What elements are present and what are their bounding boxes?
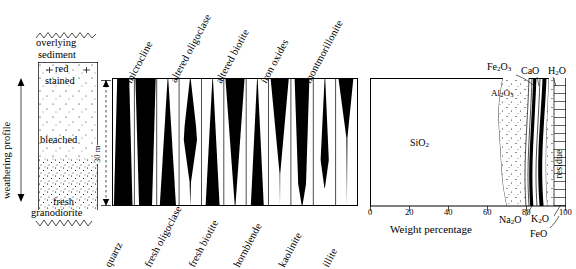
mineral-label-hornblende: hornblende <box>231 221 263 269</box>
chart-xtick-20: 20 <box>405 208 414 217</box>
mineral-wedge-montmorillonite <box>295 78 310 206</box>
band-fill-fe2o3 <box>529 78 536 206</box>
chart-annotation-na2o: Na2O <box>499 215 521 226</box>
mineral-label-quartz: quartz <box>102 240 124 269</box>
overlying-sediment-label-line1: overlying <box>36 37 76 48</box>
mineral-label-altered-biotite: altered biotite <box>213 27 251 85</box>
zone-label-red-stained-line1: red <box>55 63 68 74</box>
mineral-label-fresh-biotite: fresh biotite <box>186 218 220 269</box>
overlying-sediment-label-line2: sediment <box>38 49 76 60</box>
leader-h2o <box>552 77 562 87</box>
mineral-wedge-illite <box>338 78 353 206</box>
mineral-wedge-quartz <box>114 78 133 206</box>
weathering-profile-label: weathering profile <box>1 122 12 199</box>
mineral-label-altered-oligoclase-line1: altered oligoclase <box>169 13 214 85</box>
mineral-label-fresh-oligoclase: fresh oligoclase <box>142 204 184 269</box>
chart-xtick-0: 0 <box>368 208 372 217</box>
zone-label-bleached: bleached <box>40 134 77 145</box>
zone-label-fresh-granodiorite-line1: fresh <box>53 196 74 207</box>
leader-feo <box>548 216 562 230</box>
mineral-wedge-fresh-biotite <box>206 78 220 206</box>
chart-annotation-h2o: H2O <box>548 66 566 77</box>
chart-annotation-residue: residue <box>554 150 565 179</box>
zone-label-fresh-granodiorite-line2: granodiorite <box>31 207 82 218</box>
zone-label-red-stained-line2: stained <box>45 75 75 86</box>
weathering-profile-axis <box>14 78 28 202</box>
chart-xtick-60: 60 <box>483 208 492 217</box>
chart-annotation-fe2o3: Fe2O3 <box>487 62 511 73</box>
chart-annotation-sio2: SiO2 <box>410 138 429 149</box>
scale-bar-label: 30 m <box>93 145 102 164</box>
chart-xtick-40: 40 <box>444 208 453 217</box>
mineral-wedge-iron-oxides <box>271 78 289 206</box>
chart-annotation-feo: FeO <box>530 229 547 240</box>
chart-annotation-al2o3: Al2O3 <box>491 89 514 99</box>
mineral-wedge-hornblende <box>251 78 264 206</box>
band-fill-h2o <box>546 78 554 206</box>
chart-xaxis-label: Weight percentage <box>390 224 472 236</box>
band-fill-residue <box>554 78 566 206</box>
mineral-wedge-altered-oligoclase <box>184 78 197 206</box>
mineral-wedge-kaolinite <box>321 78 329 188</box>
mineral-wedge-fresh-oligoclase <box>160 78 176 206</box>
chemistry-chart <box>370 78 566 206</box>
scale-bar <box>100 80 112 206</box>
chart-annotation-cao: CaO <box>521 66 539 77</box>
mineral-label-altered-oligoclase: altered oligoclase <box>169 13 214 85</box>
mineral-abundance-panel <box>112 78 358 206</box>
granodiorite-wavy-line <box>36 218 98 227</box>
chart-annotation-k2o: K2O <box>531 214 549 225</box>
mineral-label-montmorillonite: montmorillonite <box>302 18 344 85</box>
mineral-wedge-microcline <box>135 78 155 206</box>
leader-cao <box>533 77 543 87</box>
mineral-label-kaolinite: kaolinite <box>276 231 303 269</box>
mineral-wedge-altered-biotite <box>225 78 244 206</box>
mineral-label-illite: illite <box>320 246 339 269</box>
